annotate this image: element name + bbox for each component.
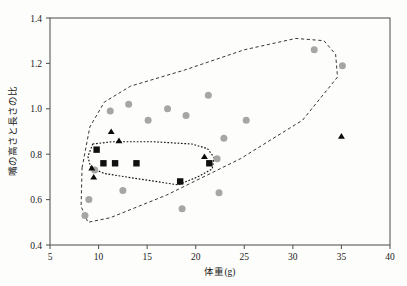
data-point-circle (107, 108, 114, 115)
scatter-plot-canvas: 510152025303540 0.40.60.81.01.21.4 体重(g)… (0, 0, 407, 286)
data-point-square (177, 178, 183, 184)
data-point-circle (85, 196, 92, 203)
data-point-circle (119, 187, 126, 194)
plot-frame (50, 18, 390, 245)
y-tick-label: 1.0 (30, 104, 42, 114)
data-point-circle (183, 112, 190, 119)
data-point-circle (179, 205, 186, 212)
y-axis-tick-labels: 0.40.60.81.01.21.4 (30, 14, 42, 251)
data-point-square (93, 146, 99, 152)
data-point-triangle (338, 133, 345, 139)
data-point-triangle (116, 138, 123, 144)
series-gray-circles (81, 46, 345, 219)
data-point-circle (216, 189, 223, 196)
outer-hull (81, 38, 337, 222)
data-point-circle (164, 105, 171, 112)
data-point-triangle (108, 128, 115, 134)
hull-outlines (81, 38, 337, 222)
y-tick-label: 0.4 (30, 241, 42, 251)
data-point-circle (243, 117, 250, 124)
x-tick-label: 20 (191, 252, 201, 262)
x-tick-label: 40 (385, 252, 395, 262)
plot-frame-rect (50, 18, 390, 245)
x-tick-label: 25 (240, 252, 250, 262)
y-tick-label: 1.2 (30, 59, 42, 69)
data-point-square (133, 160, 139, 166)
data-point-circle (205, 92, 212, 99)
data-point-triangle (90, 174, 97, 180)
y-tick-label: 0.6 (30, 195, 42, 205)
y-axis-title: 嘴の高さと長さの比 (7, 86, 18, 176)
x-axis-ticks (50, 245, 390, 249)
data-point-circle (214, 155, 221, 162)
series-black-squares (93, 146, 212, 184)
x-tick-label: 30 (288, 252, 298, 262)
data-point-circle (125, 101, 132, 108)
data-point-triangle (201, 153, 208, 159)
x-axis-title: 体重(g) (204, 266, 235, 278)
chart-figure: 510152025303540 0.40.60.81.01.21.4 体重(g)… (0, 0, 407, 286)
x-tick-label: 35 (337, 252, 347, 262)
x-tick-label: 15 (142, 252, 152, 262)
x-tick-label: 5 (48, 252, 53, 262)
y-axis-ticks (46, 18, 50, 245)
data-point-square (206, 160, 212, 166)
data-point-square (100, 160, 106, 166)
data-point-circle (220, 135, 227, 142)
inner-hull (88, 142, 214, 185)
data-point-circle (311, 46, 318, 53)
data-point-circle (339, 62, 346, 69)
data-point-square (112, 160, 118, 166)
y-tick-label: 1.4 (30, 14, 42, 24)
x-tick-label: 10 (94, 252, 104, 262)
x-axis-tick-labels: 510152025303540 (48, 252, 395, 262)
data-point-circle (145, 117, 152, 124)
data-points (81, 46, 345, 219)
series-black-triangles (88, 128, 345, 179)
y-tick-label: 0.8 (30, 150, 42, 160)
data-point-circle (81, 212, 88, 219)
